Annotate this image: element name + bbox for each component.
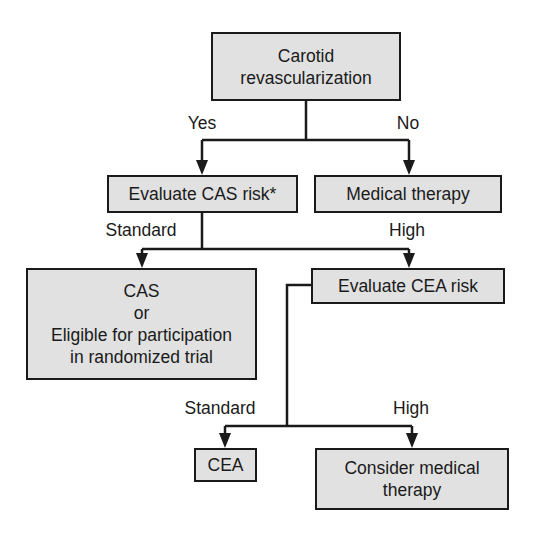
node-text: therapy — [383, 479, 441, 501]
node-cea: CEA — [194, 448, 257, 482]
node-text: revascularization — [240, 67, 371, 89]
edge-label-cea-high: High — [393, 398, 429, 418]
node-text: Evaluate CEA risk — [338, 275, 478, 297]
node-text: CEA — [208, 454, 244, 476]
edge-label-cas-high: High — [389, 220, 425, 240]
node-text: or — [134, 302, 150, 324]
node-text: Evaluate CAS risk* — [129, 183, 277, 205]
node-text: in randomized trial — [70, 346, 213, 368]
connector-cea-stem — [287, 285, 311, 426]
node-text: Carotid — [278, 45, 334, 67]
node-text: CAS — [124, 280, 160, 302]
arrowhead-cea-standard — [219, 433, 231, 448]
arrowhead-yes — [196, 160, 208, 175]
node-evaluate-cas-risk: Evaluate CAS risk* — [107, 175, 298, 213]
edge-label-yes: Yes — [188, 113, 217, 133]
node-cas-or-randomized-trial: CAS or Eligible for participation in ran… — [26, 268, 257, 380]
node-evaluate-cea-risk: Evaluate CEA risk — [311, 268, 505, 304]
edge-label-no: No — [397, 113, 419, 133]
edge-label-cea-standard: Standard — [184, 398, 255, 418]
arrowhead-no — [403, 160, 415, 175]
node-text: Eligible for participation — [51, 324, 232, 346]
node-consider-medical-therapy: Consider medical therapy — [315, 448, 509, 510]
arrowhead-cea-high — [406, 433, 418, 448]
carotid-revascularization-flowchart: Carotid revascularization Yes No Evaluat… — [0, 0, 536, 537]
node-text: Medical therapy — [346, 183, 470, 205]
node-carotid-revascularization: Carotid revascularization — [211, 32, 401, 101]
node-text: Consider medical — [344, 457, 479, 479]
arrowhead-cas-standard — [136, 253, 148, 268]
node-medical-therapy: Medical therapy — [314, 175, 502, 213]
edge-label-cas-standard: Standard — [105, 220, 176, 240]
arrowhead-cas-high — [403, 253, 415, 268]
